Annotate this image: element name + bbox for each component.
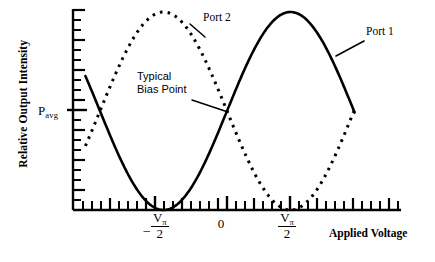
data-curves [85,12,354,210]
axis-lines [73,9,401,210]
fraction-numerator: Vπ [278,211,296,227]
fraction-denominator: 2 [278,227,296,241]
x-tick-label-zero: 0 [212,216,230,232]
fraction-pos: Vπ 2 [278,211,296,241]
port-1-callout-label: Port 1 [366,26,394,38]
fraction-neg: Vπ 2 [151,211,169,241]
minus-sign: – [143,222,151,238]
pi-subscript: π [162,217,166,227]
callout-leaders [190,24,364,112]
chart-figure: Relative Output Intensity Applied Voltag… [0,0,435,262]
curve-port-1 [85,12,354,210]
port-1-leader-line [336,41,364,56]
pi-subscript: π [290,217,294,227]
x-axis-ticks [83,196,398,210]
x-tick-label-pos-vpi-over-2: Vπ 2 [264,211,310,241]
curve-port-2 [85,12,354,210]
bias-point-callout-label: Typical Bias Point [137,70,187,97]
bias-label-line-2: Bias Point [137,83,187,95]
y-axis-title: Relative Output Intensity [18,19,30,189]
x-axis-title: Applied Voltage [329,228,407,240]
y-axis-ticks [67,10,87,200]
p-avg-subscript: avg [45,110,58,120]
port-2-callout-label: Port 2 [203,12,231,24]
x-tick-label-neg-vpi-over-2: – Vπ 2 [128,211,184,241]
port-2-leader-line [190,24,205,37]
fraction-numerator: Vπ [151,211,169,227]
bias-label-line-1: Typical [137,70,171,82]
bias-point-leader-line [192,100,228,112]
fraction-denominator: 2 [151,227,169,241]
y-axis-p-avg-label: Pavg [38,104,58,119]
